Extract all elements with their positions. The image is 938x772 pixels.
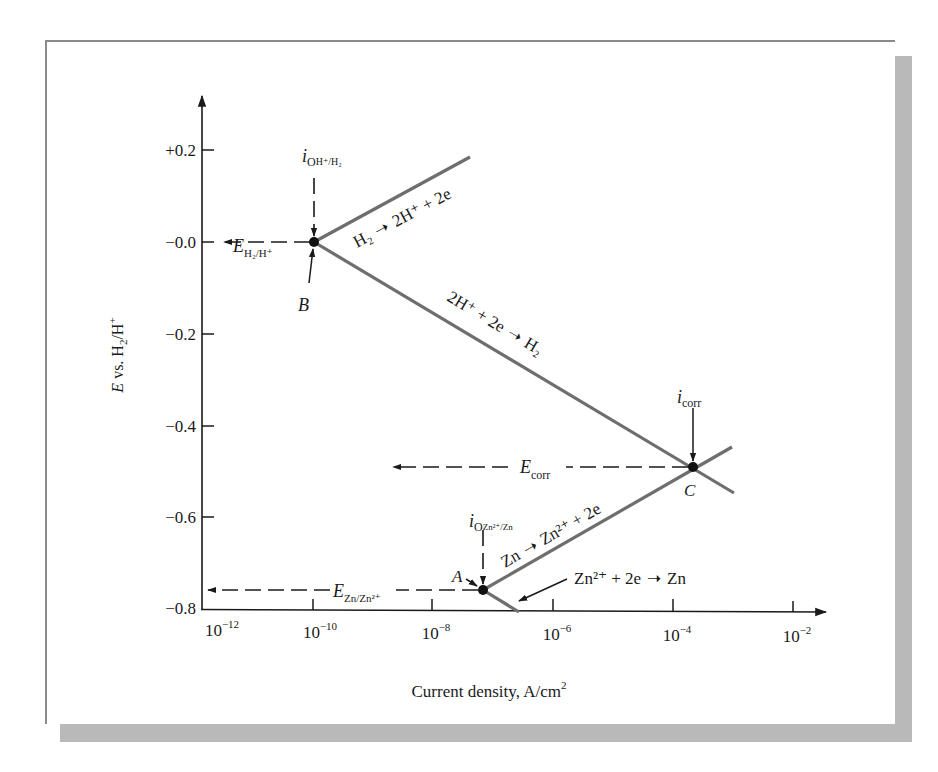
point-c-marker xyxy=(688,462,698,472)
i-corr-label: icorr xyxy=(677,387,701,410)
point-a-label: A xyxy=(451,567,463,586)
point-b-label: B xyxy=(298,295,309,315)
y-tick-label: −0.8 xyxy=(165,599,196,618)
zn-reduction-label: Zn²⁺ + 2e➝Zn xyxy=(574,569,686,588)
e-corr-label: Ecorr xyxy=(519,457,550,482)
y-tick-label: −0.4 xyxy=(165,417,196,436)
zn-red-pointer-arrow xyxy=(519,579,567,601)
e-h2-label: EH₂/H⁺ xyxy=(232,236,273,259)
x-tick-label: 10−4 xyxy=(663,623,692,645)
svg-text:2H⁺ + 2e➝H₂: 2H⁺ + 2e➝H₂ xyxy=(444,287,546,359)
point-b-marker xyxy=(309,237,319,247)
i0-h-label: iOH⁺/H₂ xyxy=(302,146,342,169)
x-tick-label: 10−8 xyxy=(422,621,451,643)
x-tick-label: 10−10 xyxy=(303,620,338,642)
x-tick-label: 10−6 xyxy=(543,622,572,644)
point-c-label: C xyxy=(684,481,696,500)
polarization-chart: +0.2 −0.0 −0.2 −0.4 −0.6 −0.8 E vs. H2/H… xyxy=(0,0,938,772)
h-reduction-label: 2H⁺ + 2e➝H₂ xyxy=(444,287,546,359)
point-a-marker xyxy=(478,585,488,595)
x-tick-label: 10−12 xyxy=(205,618,239,640)
zn-reduction-line xyxy=(483,590,519,612)
y-tick-label: −0.2 xyxy=(165,325,196,344)
y-axis-label: E vs. H2/H+ xyxy=(106,317,129,393)
h-reduction-line xyxy=(314,242,734,493)
x-tick-label: 10−2 xyxy=(783,624,812,646)
y-tick-label: +0.2 xyxy=(165,141,196,160)
y-tick-label: −0.6 xyxy=(165,508,196,527)
svg-text:Zn➝Zn²⁺ + 2e: Zn➝Zn²⁺ + 2e xyxy=(498,499,604,571)
i0-zn-label: iOZn²⁺/Zn xyxy=(469,511,513,534)
a-pointer-arrow xyxy=(466,579,477,586)
e-zn-label: EZn/Zn²⁺ xyxy=(332,581,381,604)
b-pointer-arrow xyxy=(309,249,313,283)
x-axis-label: Current density, A/cm2 xyxy=(411,679,566,701)
y-axis: +0.2 −0.0 −0.2 −0.4 −0.6 −0.8 E vs. H2/H… xyxy=(106,96,214,618)
zn-oxidation-label: Zn➝Zn²⁺ + 2e xyxy=(498,499,604,571)
y-tick-label: −0.0 xyxy=(165,233,196,252)
x-axis: 10−12 10−10 10−8 10−6 10−4 10−2 Current … xyxy=(201,599,826,701)
